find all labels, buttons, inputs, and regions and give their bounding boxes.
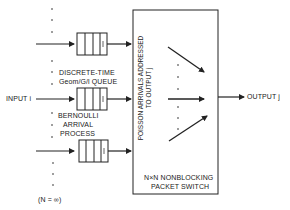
- queue-type-label-1: DISCRETE-TIME: [59, 69, 115, 77]
- switch-internal-arrows: [168, 47, 207, 141]
- switch-label-2: PACKET SWITCH: [151, 183, 209, 191]
- n-infinity-label: (N = ∞): [38, 196, 61, 204]
- poisson-label-2: TO OUTPUT j: [145, 48, 153, 128]
- queue-type-label-2: Geom/G/l QUEUE: [59, 78, 117, 86]
- queue-middle: [36, 88, 131, 110]
- arrival-label-1: BERNOULLI: [58, 112, 99, 120]
- queue-bottom: [36, 140, 131, 162]
- input-label: INPUT i: [6, 95, 31, 103]
- ellipsis-dots-left: [51, 8, 54, 186]
- arrival-label-2: ARRIVAL: [63, 121, 93, 129]
- output-label: OUTPUT j: [247, 93, 280, 101]
- switch-label-1: N×N NONBLOCKING: [144, 174, 213, 182]
- poisson-label-1: POISSON ARRIVALS ADDRESSED: [137, 18, 145, 158]
- queue-top: [36, 33, 131, 55]
- arrival-label-3: PROCESS: [60, 130, 95, 138]
